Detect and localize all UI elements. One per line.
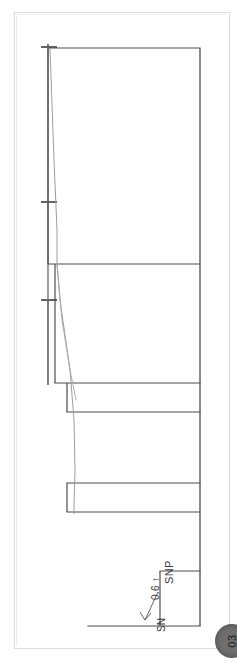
annotation-value-text: 0.6 xyxy=(150,585,161,600)
annotation-series-label: SN xyxy=(156,618,167,632)
page-number-text: 03 xyxy=(226,634,237,647)
annotation-value-label: 0.6 ↑ xyxy=(150,577,161,600)
step-chart xyxy=(0,0,237,664)
envelope-trace xyxy=(50,48,76,514)
arrow-up-icon: ↑ xyxy=(150,577,161,582)
step-line xyxy=(48,48,200,626)
annotation-snp-label: SNP xyxy=(163,560,175,584)
scanned-page: 0.6 ↑ SNP SN 03 xyxy=(0,0,237,664)
